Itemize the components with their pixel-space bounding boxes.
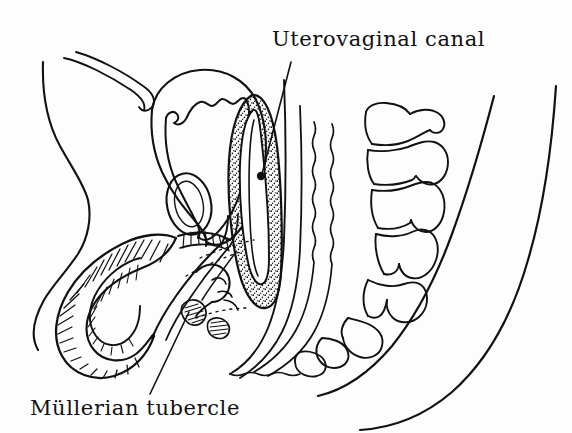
leader-dot-uterovaginal bbox=[257, 172, 265, 180]
anatomical-illustration bbox=[0, 0, 572, 433]
phallus-inner-hatching bbox=[88, 265, 138, 355]
perineal-folds bbox=[196, 265, 238, 316]
pubic-symphysis bbox=[161, 169, 217, 239]
figure-canvas: Uterovaginal canal Müllerian tubercle bbox=[0, 0, 572, 433]
uterovaginal-canal bbox=[220, 85, 295, 320]
leader-line-mullerian bbox=[150, 312, 189, 394]
label-uterovaginal-canal: Uterovaginal canal bbox=[272, 27, 485, 51]
vertebral-column bbox=[295, 103, 448, 377]
umbilical-cord-stalk bbox=[64, 52, 154, 111]
label-mullerian-tubercle: Müllerian tubercle bbox=[30, 396, 240, 420]
